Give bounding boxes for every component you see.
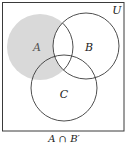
universe-label: U — [112, 4, 122, 17]
diagram-caption: A ∩ B′ — [47, 133, 80, 144]
set-c-label: C — [60, 88, 69, 101]
set-b-label: B — [84, 41, 93, 54]
venn-diagram: U A B C A ∩ B′ — [0, 0, 128, 147]
set-a-label: A — [32, 41, 41, 54]
